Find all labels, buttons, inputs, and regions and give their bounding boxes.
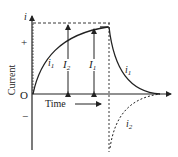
negative-sign: − bbox=[22, 110, 28, 122]
i1-decay-curve bbox=[109, 27, 160, 94]
x-axis-label: Time bbox=[45, 98, 66, 109]
i1-growth-label: i1 bbox=[48, 57, 54, 70]
i1-decay-label: i1 bbox=[125, 64, 131, 77]
positive-sign: + bbox=[21, 36, 27, 48]
rl-current-diagram: i + O − Current Time i1 i1 i2 I2 I1 bbox=[0, 0, 178, 157]
i2-label: i2 bbox=[126, 118, 133, 131]
y-axis-label: Current bbox=[6, 65, 17, 96]
y-axis-symbol: i bbox=[24, 11, 27, 22]
i2-induced-curve bbox=[110, 94, 160, 148]
origin-label: O bbox=[20, 89, 28, 101]
